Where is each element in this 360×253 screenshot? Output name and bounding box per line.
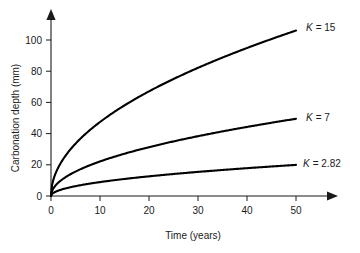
x-axis [51,191,338,200]
carbonation-depth-chart: 0 20 40 60 80 100 0 10 20 30 40 50 Time … [0,0,360,253]
y-tick-label-80: 80 [31,66,43,77]
series-label-k-15: K= 15 [306,22,336,33]
series-label-k-7: K= 7 [306,112,330,123]
k-value-15: = 15 [316,22,336,33]
series-labels: K= 15 K= 7 K= 2.82 [303,22,341,169]
curve-k-282 [51,165,296,196]
y-axis-arrowhead [46,9,55,20]
curve-k-15 [51,31,296,196]
k-value-7: = 7 [316,112,331,123]
x-axis-title: Time (years) [165,230,221,241]
y-tick-label-100: 100 [25,35,42,46]
k-symbol-7: K [306,112,314,123]
data-curves [51,31,296,196]
k-symbol-282: K [303,158,311,169]
y-axis-title: Carbonation depth (mm) [10,64,21,172]
y-tick-label-0: 0 [36,191,42,202]
chart-canvas: 0 20 40 60 80 100 0 10 20 30 40 50 Time … [0,0,360,253]
k-symbol-15: K [306,22,314,33]
series-label-k-282: K= 2.82 [303,158,341,169]
y-tick-label-60: 60 [31,97,43,108]
y-tick-label-40: 40 [31,128,43,139]
y-axis-ticks [46,40,51,196]
x-tick-label-0: 0 [48,205,54,216]
x-axis-arrowhead [327,191,338,200]
x-tick-label-40: 40 [241,205,253,216]
x-axis-tick-labels: 0 10 20 30 40 50 [48,205,302,216]
x-axis-ticks [51,196,296,201]
x-tick-label-50: 50 [290,205,302,216]
k-value-282: = 2.82 [313,158,342,169]
x-tick-label-30: 30 [192,205,204,216]
x-tick-label-20: 20 [143,205,155,216]
x-tick-label-10: 10 [94,205,106,216]
y-tick-label-20: 20 [31,159,43,170]
y-axis-tick-labels: 0 20 40 60 80 100 [25,35,42,202]
